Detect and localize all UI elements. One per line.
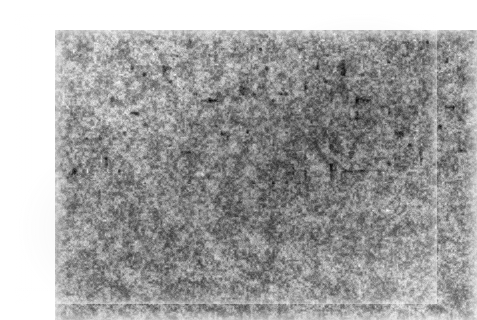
micrograph-figure — [55, 30, 477, 320]
micrograph-image — [55, 30, 477, 320]
